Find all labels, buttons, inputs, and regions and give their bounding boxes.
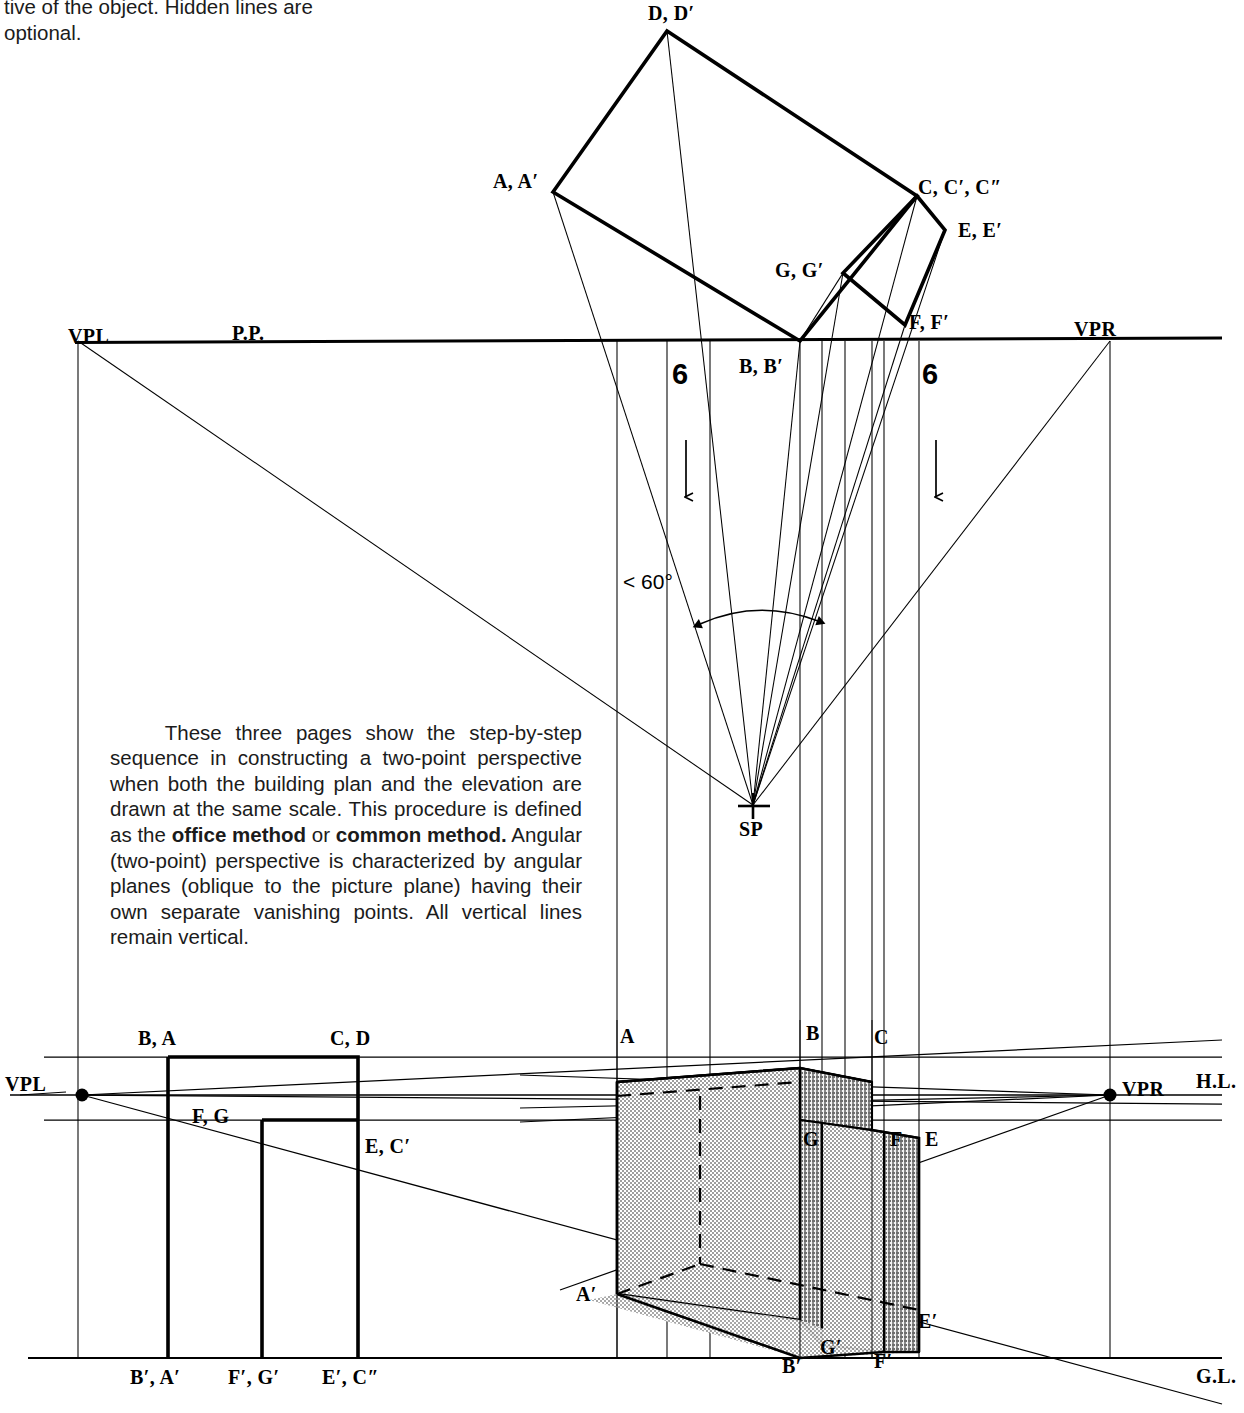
station-point-label: SP bbox=[739, 818, 763, 841]
plan-label-b: B, B′ bbox=[739, 355, 783, 378]
plan-label-d: D, D′ bbox=[648, 2, 695, 25]
perspective-face-middle bbox=[822, 1123, 884, 1352]
elevation-bottom-label-ba: B′, A′ bbox=[130, 1366, 180, 1389]
label-ground-line: G.L. bbox=[1196, 1365, 1237, 1388]
persp-label-e-prime: E′ bbox=[918, 1310, 938, 1333]
plan-label-g: G, G′ bbox=[775, 259, 824, 282]
cone-of-vision-label: < 60° bbox=[623, 570, 673, 594]
station-point-marker bbox=[738, 793, 770, 819]
perspective-left-face bbox=[617, 1068, 800, 1320]
body-paragraph: These three pages show the step-by-step … bbox=[110, 694, 582, 976]
elevation-label-fg: F, G bbox=[192, 1105, 230, 1128]
label-vpr-perspective: VPR bbox=[1122, 1078, 1164, 1101]
elevation-label-cd: C, D bbox=[330, 1027, 371, 1050]
elevation-label-ec: E, C′ bbox=[365, 1135, 410, 1158]
persp-label-b: B bbox=[806, 1022, 820, 1045]
elevation-bottom-label-fg: F′, G′ bbox=[228, 1366, 279, 1389]
vpl-dot bbox=[76, 1089, 89, 1102]
label-vpl-elevation: VPL bbox=[5, 1073, 46, 1096]
perspective-solid bbox=[589, 1068, 919, 1358]
technical-drawing-page: tive of the object. Hidden lines are opt… bbox=[0, 0, 1244, 1413]
elevation-bottom-label-ec: E′, C″ bbox=[322, 1366, 379, 1389]
plan-label-c: C, C′, C″ bbox=[918, 176, 1002, 199]
persp-label-g: G bbox=[803, 1128, 819, 1151]
plan-view-outline bbox=[553, 31, 945, 341]
label-vpl-plan: VPL bbox=[68, 325, 109, 348]
perspective-face-g bbox=[800, 1120, 822, 1345]
persp-label-f-prime: F′ bbox=[874, 1350, 893, 1373]
persp-label-a: A bbox=[620, 1025, 635, 1048]
visual-rays bbox=[553, 31, 945, 805]
persp-label-a-prime: A′ bbox=[576, 1283, 597, 1306]
vpr-dot bbox=[1104, 1089, 1117, 1102]
persp-label-c: C bbox=[874, 1026, 889, 1049]
body-mid: or bbox=[306, 823, 336, 846]
persp-label-b-prime: B′ bbox=[782, 1355, 802, 1378]
persp-label-e: E bbox=[925, 1128, 939, 1151]
elevation-label-ba: B, A bbox=[138, 1027, 176, 1050]
persp-label-f: F bbox=[890, 1128, 903, 1151]
plan-label-f: F, F′ bbox=[909, 311, 949, 334]
plan-label-a: A, A′ bbox=[493, 170, 538, 193]
perspective-face-f bbox=[884, 1132, 919, 1352]
body-bold-office-method: office method bbox=[172, 823, 306, 846]
plan-label-e: E, E′ bbox=[958, 219, 1002, 242]
label-vpr-plan: VPR bbox=[1074, 318, 1116, 341]
label-horizon-line: H.L. bbox=[1196, 1070, 1237, 1093]
depth-mark-right: 6 bbox=[922, 358, 938, 391]
label-picture-plane: P.P. bbox=[232, 322, 264, 345]
orthographic-elevation bbox=[168, 1057, 358, 1358]
body-bold-common-method: common method. bbox=[336, 823, 507, 846]
depth-mark-left: 6 bbox=[672, 358, 688, 391]
depth-arrows bbox=[686, 440, 936, 497]
persp-label-g-prime: G′ bbox=[820, 1336, 842, 1359]
